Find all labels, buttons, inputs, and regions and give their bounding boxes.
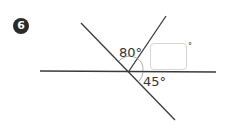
answer-input-box[interactable] (150, 43, 187, 70)
angle-diagram (0, 0, 229, 139)
degree-symbol: ° (188, 42, 192, 51)
angle-label-45: 45° (143, 75, 166, 88)
angle-label-80: 80° (119, 46, 142, 59)
angle-arc-unknown (141, 62, 143, 71)
